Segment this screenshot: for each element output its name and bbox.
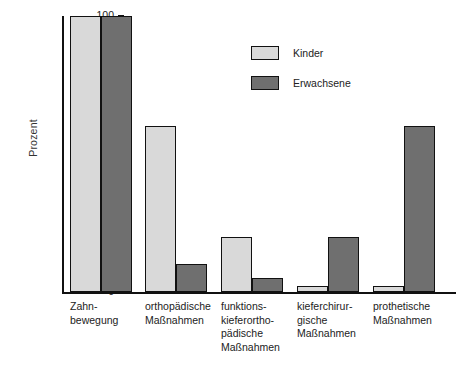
category-label-3: kieferchirur-gischeMaßnahmen (297, 300, 356, 341)
bar-erwachsene-0 (101, 16, 132, 292)
bar-erwachsene-2 (252, 278, 283, 292)
category-label-line: prothetische (373, 300, 432, 314)
category-label-line: Zahn- (70, 300, 118, 314)
category-label-line: pädische (221, 327, 280, 341)
category-label-1: orthopädischeMaßnahmen (145, 300, 211, 327)
bar-kinder-0 (70, 16, 101, 292)
category-label-line: gische (297, 314, 356, 328)
x-axis-line (62, 292, 456, 294)
category-label-line: Maßnahmen (297, 327, 356, 341)
category-label-line: kieferchirur- (297, 300, 356, 314)
category-label-line: Maßnahmen (145, 314, 211, 328)
bar-group (70, 16, 132, 292)
legend-item-kinder: Kinder (251, 42, 351, 64)
legend-label: Kinder (293, 47, 323, 59)
x-axis-category-labels: Zahn-bewegungorthopädischeMaßnahmenfunkt… (64, 300, 464, 366)
legend-swatch-kinder (251, 46, 279, 60)
chart-legend: KinderErwachsene (251, 42, 351, 102)
bar-erwachsene-4 (404, 126, 435, 292)
category-label-4: prothetischeMaßnahmen (373, 300, 432, 327)
bar-kinder-2 (221, 237, 252, 292)
bar-kinder-4 (373, 286, 404, 292)
bar-group (145, 16, 207, 292)
category-label-line: Maßnahmen (373, 314, 432, 328)
legend-item-erwachsene: Erwachsene (251, 72, 351, 94)
category-label-line: kieferortho- (221, 314, 280, 328)
category-label-line: Maßnahmen (221, 341, 280, 355)
legend-label: Erwachsene (293, 77, 351, 89)
category-label-line: funktions- (221, 300, 280, 314)
bar-group (373, 16, 435, 292)
category-label-0: Zahn-bewegung (70, 300, 118, 327)
bar-kinder-1 (145, 126, 176, 292)
category-label-line: bewegung (70, 314, 118, 328)
category-label-2: funktions-kieferortho-pädischeMaßnahmen (221, 300, 280, 354)
bar-kinder-3 (297, 286, 328, 292)
legend-swatch-erwachsene (251, 76, 279, 90)
y-axis-ticks: 0102030405060708090100 (0, 0, 62, 368)
bar-erwachsene-1 (176, 264, 207, 292)
bar-chart: Prozent 0102030405060708090100 KinderErw… (0, 0, 472, 368)
category-label-line: orthopädische (145, 300, 211, 314)
bar-erwachsene-3 (328, 237, 359, 292)
